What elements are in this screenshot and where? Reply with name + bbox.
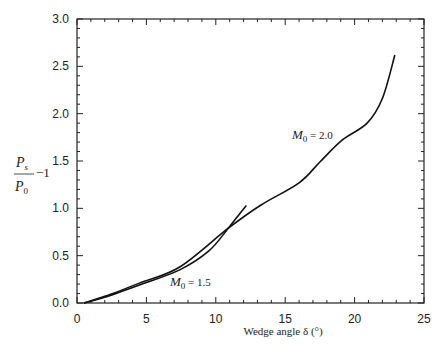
x-tick-label: 0 bbox=[74, 312, 81, 326]
x-axis-label: Wedge angle δ (°) bbox=[243, 325, 323, 338]
x-tick-label: 15 bbox=[279, 312, 293, 326]
x-tick-label: 25 bbox=[417, 312, 431, 326]
x-tick-label: 10 bbox=[209, 312, 223, 326]
plot-frame bbox=[77, 19, 424, 303]
label-m15: M0 = 1.5 bbox=[169, 274, 211, 291]
svg-text:M0 = 2.0: M0 = 2.0 bbox=[291, 127, 333, 144]
svg-text:Ps: Ps bbox=[15, 155, 29, 172]
y-tick-label: 1.5 bbox=[52, 154, 69, 168]
y-tick-label: 2.5 bbox=[52, 59, 69, 73]
svg-text:−1: −1 bbox=[36, 165, 50, 180]
y-tick-label: 0.5 bbox=[52, 249, 69, 263]
x-tick-label: 5 bbox=[143, 312, 150, 326]
label-m2: M0 = 2.0 bbox=[291, 127, 333, 144]
x-tick-label: 20 bbox=[348, 312, 362, 326]
y-tick-label: 3.0 bbox=[52, 12, 69, 26]
x-tick-labels: 0510152025 bbox=[74, 312, 431, 326]
y-axis-label: Ps −1 P0 bbox=[14, 155, 50, 196]
y-tick-label: 1.0 bbox=[52, 201, 69, 215]
svg-text:P0: P0 bbox=[14, 179, 29, 196]
curve-m0-2-0 bbox=[84, 55, 395, 303]
curves bbox=[84, 55, 395, 303]
chart: 0510152025 0.00.51.01.52.02.53.0 Wedge a… bbox=[0, 0, 439, 359]
curve-m0-1-5 bbox=[84, 205, 246, 303]
svg-text:M0 = 1.5: M0 = 1.5 bbox=[169, 274, 211, 291]
y-tick-label: 2.0 bbox=[52, 107, 69, 121]
y-tick-label: 0.0 bbox=[52, 296, 69, 310]
axis-ticks bbox=[77, 19, 424, 303]
y-tick-labels: 0.00.51.01.52.02.53.0 bbox=[52, 12, 69, 310]
